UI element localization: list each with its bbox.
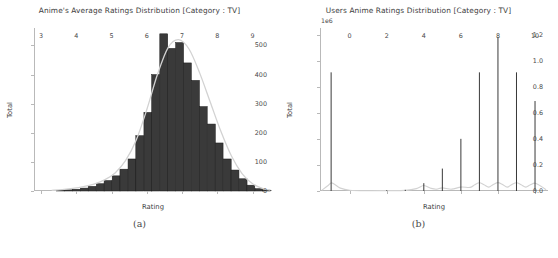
y-tick-mark	[317, 61, 320, 62]
spike-bars	[331, 37, 536, 191]
x-tick-mark	[41, 191, 42, 194]
x-tick-label: 7	[180, 32, 184, 40]
panel-a: Anime's Average Ratings Distribution [Ca…	[0, 0, 279, 240]
spike-bar	[479, 72, 480, 191]
x-tick-label: 3	[39, 32, 43, 40]
y-tick-mark	[317, 87, 320, 88]
histogram-bar	[223, 159, 231, 191]
x-tick-label: 8	[496, 32, 500, 40]
spike-bar	[516, 72, 517, 191]
panel-b: Users Anime Ratings Distribution [Catego…	[279, 0, 558, 240]
spike-bar	[405, 190, 406, 191]
x-tick-mark	[387, 191, 388, 194]
x-tick-mark	[76, 191, 77, 194]
histogram-bar	[231, 170, 239, 191]
x-tick-label: 6	[459, 32, 463, 40]
x-tick-mark	[424, 191, 425, 194]
histogram-bar	[168, 48, 176, 191]
histogram-bar	[183, 63, 191, 191]
histogram-bar	[96, 184, 104, 191]
histogram-bar	[199, 107, 207, 191]
y-tick-mark	[31, 133, 34, 134]
y-tick-label: 1.0	[533, 57, 543, 65]
y-tick-label: 0	[263, 187, 267, 195]
histogram-bar	[112, 176, 120, 191]
histogram-bar	[104, 181, 112, 191]
histogram-bar	[239, 179, 247, 191]
y-tick-mark	[317, 113, 320, 114]
histogram-bar	[207, 124, 215, 191]
x-tick-mark	[498, 191, 499, 194]
histogram-bar	[120, 169, 128, 191]
x-tick-label: 6	[145, 32, 149, 40]
y-axis-label-a: Total	[6, 102, 14, 118]
x-tick-label: 5	[110, 32, 114, 40]
spike-bar	[460, 139, 461, 191]
x-tick-label: 2	[385, 32, 389, 40]
chart-title-b: Users Anime Ratings Distribution [Catego…	[279, 6, 558, 15]
y-axis-label-b: Total	[286, 102, 294, 118]
spike-bar	[331, 72, 332, 191]
x-tick-mark	[182, 191, 183, 194]
figure-container: Anime's Average Ratings Distribution [Ca…	[0, 0, 558, 258]
x-tick-mark	[350, 191, 351, 194]
y-tick-label: 500	[255, 41, 267, 49]
chart-title-a: Anime's Average Ratings Distribution [Ca…	[0, 6, 279, 15]
y-tick-mark	[317, 139, 320, 140]
y-tick-mark	[31, 45, 34, 46]
histogram-bar	[152, 75, 160, 191]
histogram-bar	[80, 188, 88, 191]
y-tick-label: 200	[255, 129, 267, 137]
subcaption-b: (b)	[279, 218, 558, 229]
y-tick-label: 0.4	[533, 135, 543, 143]
plot-area-a: 3456789 0100200300400500 Rating Total	[34, 28, 272, 191]
histogram-bar	[255, 189, 263, 191]
y-tick-mark	[317, 191, 320, 192]
y-tick-mark	[317, 35, 320, 36]
x-tick-mark	[253, 191, 254, 194]
y-tick-mark	[31, 75, 34, 76]
y-tick-label: 100	[255, 158, 267, 166]
histogram-bar	[88, 186, 96, 191]
y-tick-label: 1.2	[533, 31, 543, 39]
histogram-bar	[144, 112, 152, 191]
y-tick-label: 0.0	[533, 187, 543, 195]
spike-bar	[442, 169, 443, 191]
x-tick-mark	[147, 191, 148, 194]
y-tick-mark	[31, 191, 34, 192]
y-tick-label: 0.6	[533, 109, 543, 117]
spike-bar	[423, 183, 424, 191]
histogram-bar	[247, 185, 255, 191]
x-tick-label: 9	[251, 32, 255, 40]
x-tick-label: 0	[348, 32, 352, 40]
y-tick-label: 0.8	[533, 83, 543, 91]
histogram-bar	[65, 190, 73, 191]
histogram-series-a	[34, 28, 272, 191]
histogram-bar	[176, 43, 184, 191]
x-axis-label-b: Rating	[423, 203, 445, 211]
x-tick-label: 8	[215, 32, 219, 40]
y-tick-label: 400	[255, 71, 267, 79]
y-tick-mark	[31, 162, 34, 163]
y-tick-mark	[31, 104, 34, 105]
spike-bar	[497, 37, 498, 191]
y-tick-label: 0.2	[533, 161, 543, 169]
footer-text-fragment	[0, 248, 558, 256]
histogram-bar	[128, 159, 136, 191]
subcaption-a: (a)	[0, 218, 279, 229]
histogram-bar	[192, 80, 200, 191]
y-tick-label: 300	[255, 100, 267, 108]
x-tick-label: 4	[74, 32, 78, 40]
spike-series-b	[320, 28, 548, 191]
histogram-bar	[136, 136, 144, 191]
y-tick-mark	[317, 165, 320, 166]
y-axis-exponent-b: 1e6	[321, 17, 333, 24]
x-tick-mark	[461, 191, 462, 194]
plot-area-b: 1e6 0246810 0.00.20.40.60.81.01.2 Rating…	[320, 28, 548, 191]
x-tick-label: 4	[422, 32, 426, 40]
kde-curve	[322, 183, 546, 191]
x-axis-label-a: Rating	[142, 203, 164, 211]
x-tick-mark	[112, 191, 113, 194]
histogram-bar	[215, 143, 223, 191]
x-tick-mark	[217, 191, 218, 194]
